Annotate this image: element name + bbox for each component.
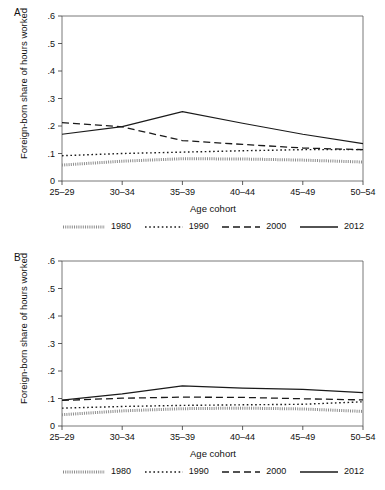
figure-root: A Foreign-born share of hours worked 0.1… — [0, 0, 385, 490]
series-line-2012 — [62, 386, 363, 400]
y-tick-label: .4 — [47, 311, 55, 321]
y-tick-label: .2 — [47, 121, 55, 131]
legend-item-2000[interactable]: 2000 — [221, 467, 286, 476]
legend-swatch-2012 — [299, 223, 339, 231]
x-tick-label: 50–54 — [350, 187, 375, 197]
legend-label-2012: 2012 — [344, 467, 364, 476]
y-tick-label: .6 — [47, 11, 55, 21]
legend-item-2000[interactable]: 2000 — [221, 222, 286, 231]
y-tick-label: .3 — [47, 339, 55, 349]
legend-swatch-1990 — [144, 468, 184, 476]
y-tick-label: 0 — [50, 176, 55, 186]
legend-label-1990: 1990 — [189, 467, 209, 476]
y-tick-label: .1 — [47, 394, 55, 404]
x-tick-label: 35–39 — [170, 432, 195, 442]
x-tick-label: 40–44 — [230, 432, 255, 442]
chart-panel-a: A Foreign-born share of hours worked 0.1… — [0, 0, 385, 245]
y-tick-label: .5 — [47, 39, 55, 49]
legend-swatch-2000 — [221, 468, 261, 476]
legend-item-2012[interactable]: 2012 — [299, 222, 364, 231]
y-tick-label: .4 — [47, 66, 55, 76]
series-line-1990 — [62, 150, 363, 156]
series-line-1990 — [62, 402, 363, 408]
legend-swatch-2000 — [221, 223, 261, 231]
legend-item-1980[interactable]: 1980 — [62, 222, 131, 231]
y-tick-label: .3 — [47, 94, 55, 104]
legend-swatch-1980 — [62, 223, 106, 231]
y-tick-label: .1 — [47, 149, 55, 159]
legend-label-1990: 1990 — [189, 222, 209, 231]
legend-item-1980[interactable]: 1980 — [62, 467, 131, 476]
series-line-2000 — [62, 397, 363, 400]
x-tick-label: 35–39 — [170, 187, 195, 197]
series-line-1980 — [62, 408, 363, 415]
x-tick-label: 25–29 — [49, 432, 74, 442]
legend-swatch-1980 — [62, 468, 106, 476]
legend-label-1980: 1980 — [111, 467, 131, 476]
y-tick-label: .6 — [47, 256, 55, 266]
series-line-1980 — [62, 159, 363, 165]
x-tick-label: 50–54 — [350, 432, 375, 442]
legend-label-1980: 1980 — [111, 222, 131, 231]
legend-label-2012: 2012 — [344, 222, 364, 231]
series-line-2012 — [62, 112, 363, 144]
legend-item-1990[interactable]: 1990 — [144, 222, 209, 231]
y-tick-label: .5 — [47, 284, 55, 294]
x-tick-label: 30–34 — [110, 187, 135, 197]
legend-a: 1980 1990 2000 2012 — [62, 222, 364, 231]
y-tick-label: .2 — [47, 366, 55, 376]
legend-swatch-2012 — [299, 468, 339, 476]
x-tick-label: 45–49 — [290, 432, 315, 442]
x-tick-label: 30–34 — [110, 432, 135, 442]
plot-area-b: 0.1.2.3.4.5.625–2930–3435–3940–4445–4950… — [0, 245, 385, 445]
x-axis-label-a: Age cohort — [62, 203, 364, 214]
y-tick-label: 0 — [50, 421, 55, 431]
legend-item-2012[interactable]: 2012 — [299, 467, 364, 476]
chart-panel-b: B Foreign-born share of hours worked 0.1… — [0, 245, 385, 490]
plot-area-a: 0.1.2.3.4.5.625–2930–3435–3940–4445–4950… — [0, 0, 385, 200]
x-tick-label: 25–29 — [49, 187, 74, 197]
legend-label-2000: 2000 — [266, 467, 286, 476]
x-axis-label-b: Age cohort — [62, 448, 364, 459]
legend-label-2000: 2000 — [266, 222, 286, 231]
x-tick-label: 45–49 — [290, 187, 315, 197]
x-tick-label: 40–44 — [230, 187, 255, 197]
legend-item-1990[interactable]: 1990 — [144, 467, 209, 476]
legend-swatch-1990 — [144, 223, 184, 231]
legend-b: 1980 1990 2000 2012 — [62, 467, 364, 476]
